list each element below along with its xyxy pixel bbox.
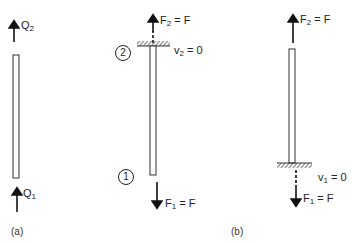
label-f2-left: F2 = F <box>160 15 190 26</box>
label-f2-right: F2 = F <box>300 14 330 25</box>
label-q1: Q1 <box>23 188 36 199</box>
label-v2: v2 = 0 <box>174 45 203 56</box>
node-1: 1 <box>118 169 134 185</box>
panel-b-left <box>137 18 170 205</box>
panel-a <box>13 24 19 212</box>
bar-element-a <box>13 55 19 178</box>
label-v1: v1 = 0 <box>318 172 347 183</box>
node-2: 2 <box>115 45 131 61</box>
label-q2: Q2 <box>21 20 34 31</box>
bar-element-b-right <box>289 49 295 163</box>
panel-b-right <box>277 18 312 203</box>
label-f1-left: F1 = F <box>165 198 195 209</box>
support-hatch-bottom <box>277 163 312 168</box>
label-f1-right: F1 = F <box>303 193 333 204</box>
caption-a: (a) <box>11 226 23 237</box>
bar-element-b-left <box>150 46 156 175</box>
caption-b: (b) <box>231 226 243 237</box>
